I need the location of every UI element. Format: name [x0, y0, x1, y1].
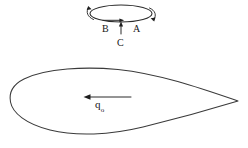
- label-point-b: B: [102, 24, 109, 34]
- figure-canvas: A B C qo: [0, 0, 248, 148]
- teardrop-airfoil-outline: [10, 68, 238, 134]
- label-point-c: C: [117, 38, 124, 48]
- diagram-svg: [0, 0, 248, 148]
- velocity-subscript: o: [101, 106, 105, 114]
- rotation-arrow-right-icon: [150, 8, 156, 22]
- vertical-up-arrow-icon: [119, 22, 123, 35]
- freestream-velocity-arrow: [84, 94, 132, 100]
- label-point-a: A: [133, 24, 140, 34]
- label-freestream-velocity: qo: [95, 99, 104, 114]
- body-group: [10, 68, 238, 134]
- vortex-ring-group: [87, 5, 156, 34]
- velocity-symbol: q: [95, 98, 101, 110]
